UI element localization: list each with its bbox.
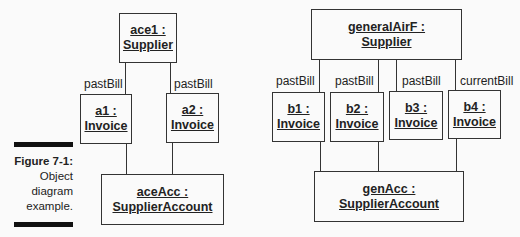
caption-line: Object: [10, 169, 73, 184]
role-label: pastBill: [335, 74, 374, 88]
object-name: b4 :: [463, 100, 485, 115]
caption-top-rule: [14, 142, 73, 147]
link-b2-genAcc: [378, 141, 379, 171]
object-b1-invoice: b1 : Invoice: [272, 92, 325, 142]
object-name: genAcc :: [363, 182, 416, 197]
object-genAcc-supplieraccount: genAcc : SupplierAccount: [314, 171, 464, 222]
link-ace1-a2: [170, 62, 171, 94]
object-ace1-supplier: ace1 : Supplier: [119, 13, 177, 63]
object-class: SupplierAccount: [339, 197, 439, 212]
link-ace1-a1: [125, 62, 126, 94]
link-generalAirF-b3: [396, 59, 397, 92]
object-class: SupplierAccount: [112, 200, 212, 215]
object-class: Supplier: [361, 35, 411, 50]
caption-line: diagram: [10, 184, 73, 199]
object-name: a2 :: [182, 103, 204, 118]
object-name: b1 :: [287, 102, 309, 117]
object-generalAirF-supplier: generalAirF : Supplier: [311, 9, 462, 60]
caption-bottom-rule: [14, 222, 73, 227]
object-aceAcc-supplieraccount: aceAcc : SupplierAccount: [101, 174, 224, 225]
figure-caption: Figure 7-1: Object diagram example.: [10, 154, 73, 214]
link-b1-genAcc: [320, 141, 321, 171]
object-name: b2 :: [346, 102, 368, 117]
object-name: ace1 :: [130, 23, 165, 38]
object-a1-invoice: a1 : Invoice: [80, 94, 132, 144]
role-label: pastBill: [84, 77, 123, 91]
object-name: aceAcc :: [137, 185, 188, 200]
object-b3-invoice: b3 : Invoice: [389, 91, 443, 140]
object-class: Invoice: [453, 115, 496, 130]
figure-label: Figure 7-1:: [10, 154, 73, 169]
object-b4-invoice: b4 : Invoice: [448, 90, 501, 139]
link-generalAirF-b1: [319, 59, 320, 92]
link-generalAirF-b2: [378, 59, 379, 92]
link-a2-aceAcc: [172, 143, 173, 174]
link-generalAirF-b4: [455, 59, 456, 92]
object-class: Invoice: [394, 116, 437, 131]
link-b4-genAcc: [456, 139, 457, 171]
object-a2-invoice: a2 : Invoice: [166, 93, 219, 143]
object-class: Supplier: [123, 38, 173, 53]
object-name: a1 :: [95, 104, 117, 119]
role-label: currentBill: [460, 74, 513, 88]
link-a1-aceAcc: [126, 143, 127, 174]
caption-line: example.: [10, 199, 73, 214]
role-label: pastBill: [402, 74, 441, 88]
object-name: b3 :: [405, 101, 427, 116]
role-label: pastBill: [276, 74, 315, 88]
object-name: generalAirF :: [348, 20, 425, 35]
role-label: pastBill: [174, 77, 213, 91]
object-class: Invoice: [335, 117, 378, 132]
object-class: Invoice: [84, 119, 127, 134]
object-class: Invoice: [277, 117, 320, 132]
object-class: Invoice: [171, 118, 214, 133]
object-b2-invoice: b2 : Invoice: [330, 92, 384, 142]
